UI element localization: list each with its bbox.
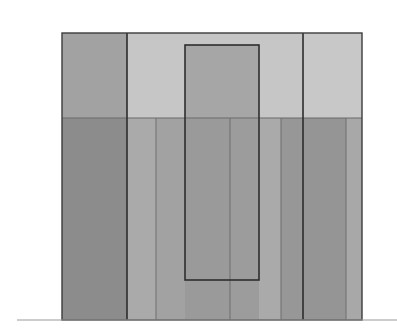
bottom-strip (156, 118, 185, 320)
bottom-strip (303, 118, 346, 320)
bottom-strip (62, 118, 127, 320)
inner-rect-top-fill (185, 45, 259, 118)
bottom-strip (281, 118, 303, 320)
bottom-strip (185, 118, 230, 320)
diagram-canvas (0, 0, 397, 335)
bottom-strip (127, 118, 156, 320)
bottom-strip (346, 118, 362, 320)
bottom-strip (259, 118, 281, 320)
bottom-strip (230, 118, 259, 320)
region-top-left (62, 33, 127, 118)
region-top-right (303, 33, 362, 118)
diagram-svg (0, 0, 397, 335)
